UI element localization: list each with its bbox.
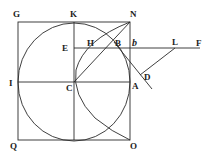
label-C: C (66, 83, 73, 93)
label-A: A (132, 81, 139, 91)
curve-NCO (75, 22, 130, 140)
label-L: L (172, 37, 178, 47)
label-N: N (130, 9, 137, 19)
label-H: H (87, 38, 94, 48)
label-I: I (9, 78, 13, 88)
label-E: E (62, 43, 68, 53)
label-K: K (70, 9, 77, 19)
label-b: b (132, 37, 137, 48)
label-G: G (13, 9, 20, 19)
label-O: O (130, 141, 137, 151)
geometric-diagram: G K N E H B b L F I C A D Q O (0, 0, 214, 160)
label-Q: Q (10, 141, 17, 151)
line-LD (140, 48, 175, 75)
label-F: F (196, 38, 202, 48)
label-D: D (144, 72, 151, 82)
label-B: B (115, 38, 121, 48)
